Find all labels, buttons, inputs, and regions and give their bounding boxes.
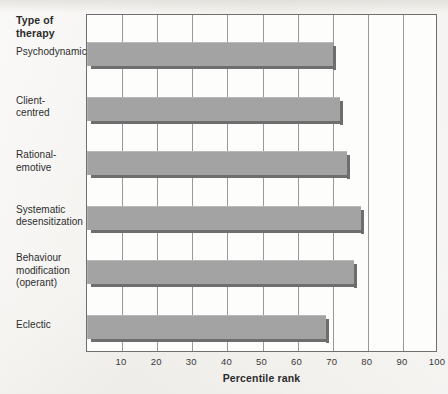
x-tick-label-20: 20 xyxy=(151,356,162,367)
category-label-1: Psychodynamic xyxy=(16,46,86,59)
y-axis-heading-line1: Type of xyxy=(16,14,82,27)
bar-6 xyxy=(87,315,326,339)
category-label-5-line-1: Behaviour xyxy=(16,252,86,265)
plot-area xyxy=(86,14,437,352)
category-label-4-line-1: Systematic xyxy=(16,204,86,217)
category-label-6-line-1: Eclectic xyxy=(16,319,86,332)
category-label-3: Rational-emotive xyxy=(16,149,86,174)
x-tick-label-40: 40 xyxy=(221,356,232,367)
category-label-3-line-1: Rational- xyxy=(16,149,86,162)
category-label-5-line-3: (operant) xyxy=(16,277,86,290)
x-tick-label-100: 100 xyxy=(429,356,445,367)
category-label-2-line-2: centred xyxy=(16,107,86,120)
x-axis-title: Percentile rank xyxy=(86,372,437,384)
x-tick-label-10: 10 xyxy=(116,356,127,367)
bar-3 xyxy=(87,151,347,175)
x-tick-label-90: 90 xyxy=(396,356,407,367)
category-label-1-line-1: Psychodynamic xyxy=(16,46,86,59)
x-tick-label-60: 60 xyxy=(291,356,302,367)
figure-page: Type of therapy Percentile rank 10203040… xyxy=(0,0,448,394)
category-label-2-line-1: Client- xyxy=(16,95,86,108)
bar-1 xyxy=(87,42,333,66)
category-label-5: Behaviourmodification(operant) xyxy=(16,252,86,290)
category-label-6: Eclectic xyxy=(16,319,86,332)
y-axis-heading-line2: therapy xyxy=(16,27,82,40)
category-label-4-line-2: desensitization xyxy=(16,216,86,229)
category-label-3-line-2: emotive xyxy=(16,162,86,175)
bar-4 xyxy=(87,206,361,230)
x-tick-label-50: 50 xyxy=(256,356,267,367)
y-axis-heading: Type of therapy xyxy=(16,14,82,40)
bar-2 xyxy=(87,97,340,121)
category-label-4: Systematicdesensitization xyxy=(16,204,86,229)
bar-5 xyxy=(87,260,354,284)
category-label-2: Client-centred xyxy=(16,95,86,120)
x-tick-label-80: 80 xyxy=(361,356,372,367)
gridline-90 xyxy=(403,15,404,351)
scan-smudge xyxy=(0,0,448,13)
category-label-5-line-2: modification xyxy=(16,265,86,278)
gridline-80 xyxy=(368,15,369,351)
x-tick-label-30: 30 xyxy=(186,356,197,367)
x-tick-label-70: 70 xyxy=(326,356,337,367)
